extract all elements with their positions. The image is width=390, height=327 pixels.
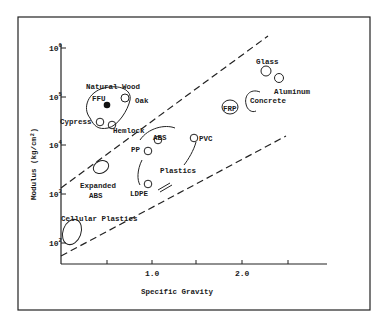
- x-axis-title: Specific Gravity: [141, 288, 214, 296]
- label-aluminum: Aluminum: [274, 88, 311, 96]
- label-natural-wood: Natural Wood: [86, 83, 140, 91]
- point-aluminum: [275, 74, 284, 83]
- label-ffu: FFU: [92, 95, 106, 103]
- point-pvc: [190, 134, 198, 142]
- svg-text:102: 102: [49, 237, 62, 248]
- x-tick-1.0: 1.0: [145, 269, 160, 278]
- plastics-group-arc-left: [138, 160, 142, 185]
- label-abs: ABS: [153, 134, 167, 142]
- label-glass: Glass: [256, 58, 279, 66]
- modulus-vs-specific-gravity-chart: 106 105 104 103 102 1.0 2.0 Specific Gra…: [0, 0, 390, 327]
- label-hemlock: Hemlock: [113, 127, 145, 135]
- point-oak: [121, 94, 129, 102]
- figure-frame: [18, 17, 370, 310]
- label-oak: Oak: [135, 97, 149, 105]
- plastics-group-arc-right: [184, 142, 196, 165]
- ldpe-pointer: [158, 183, 172, 192]
- upper-bound-dashed-line: [61, 36, 268, 188]
- svg-text:106: 106: [49, 42, 62, 53]
- label-ldpe: LDPE: [130, 190, 149, 198]
- x-tick-2.0: 2.0: [235, 269, 250, 278]
- expanded-abs-region: [91, 158, 111, 176]
- label-expanded: Expanded: [80, 182, 116, 190]
- label-plastics: Plastics: [160, 167, 197, 175]
- label-expanded-abs: ABS: [89, 192, 103, 200]
- label-pp: PP: [131, 146, 141, 154]
- label-cypress: Cypress: [60, 118, 92, 126]
- label-cellular-plastics: Cellular Plastics: [61, 215, 138, 223]
- point-pp: [144, 147, 152, 155]
- label-concrete: Concrete: [250, 97, 287, 105]
- label-pvc: PVC: [199, 135, 213, 143]
- point-cypress: [96, 118, 104, 126]
- point-glass: [261, 66, 271, 76]
- label-frp: FRP: [223, 105, 237, 113]
- point-ldpe: [144, 180, 152, 188]
- y-axis-title: Modulus (kg/cm²): [30, 128, 38, 200]
